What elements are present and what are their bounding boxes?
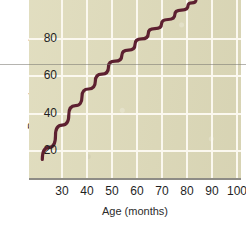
plot-area [29,0,241,178]
data-curve [29,0,241,178]
scan-seam-line [0,64,246,65]
x-axis-title: Age (months) [29,205,241,217]
y-tick-label-40: 40 [31,107,57,119]
x-tick-label-100: 100 [220,185,246,197]
y-tick-label-20: 20 [31,144,57,156]
chart-figure: Percentage correct 80 60 40 20 30 40 50 … [0,0,246,229]
y-tick-label-80: 80 [31,32,57,44]
x-axis-line [29,178,241,180]
y-tick-label-60: 60 [31,69,57,81]
